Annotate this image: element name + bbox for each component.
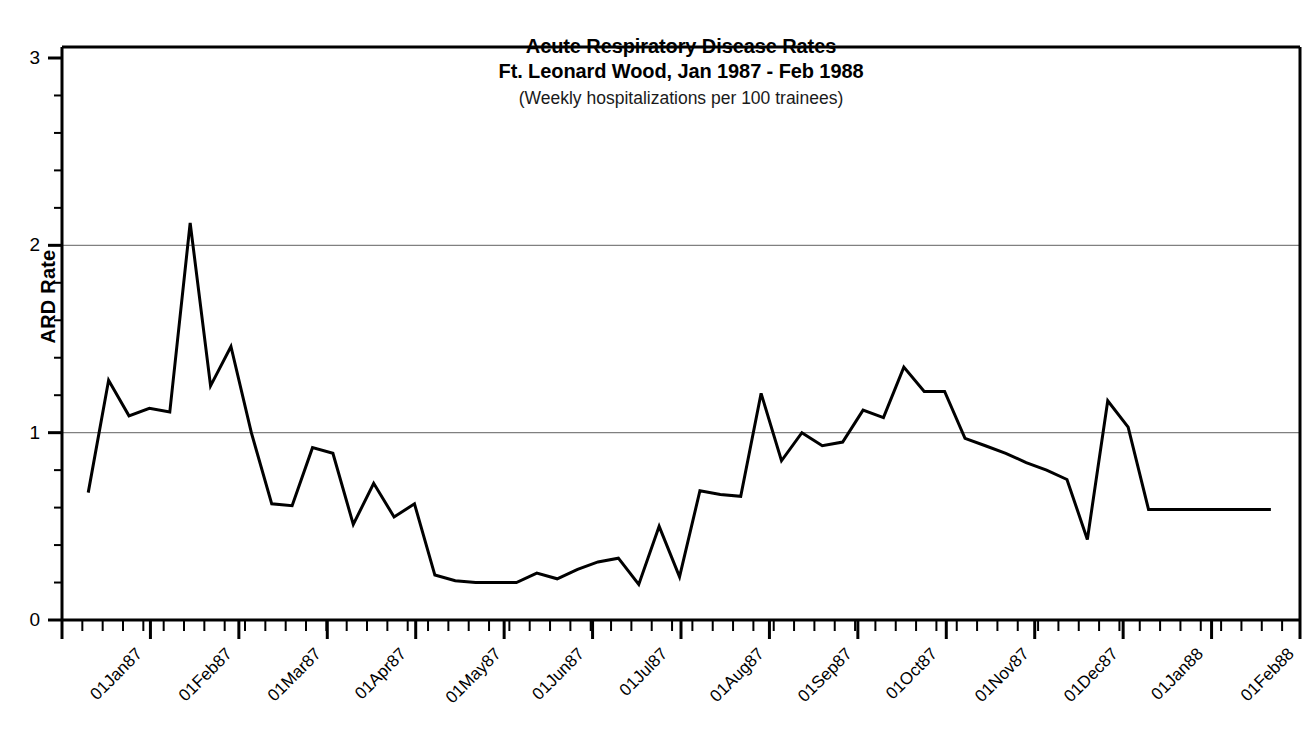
y-tick-label: 2 xyxy=(10,235,40,254)
chart-container: Acute Respiratory Disease Rates Ft. Leon… xyxy=(0,0,1310,746)
plot-area xyxy=(0,0,1310,746)
gridlines xyxy=(62,245,1300,432)
axis-frame xyxy=(62,47,1300,620)
ard-rate-line xyxy=(88,223,1271,585)
y-axis-ticks xyxy=(48,58,62,620)
x-axis-ticks xyxy=(62,620,1300,639)
y-tick-label: 3 xyxy=(10,48,40,67)
y-tick-label: 0 xyxy=(10,610,40,629)
y-tick-label: 1 xyxy=(10,423,40,442)
data-series-line xyxy=(88,223,1271,585)
